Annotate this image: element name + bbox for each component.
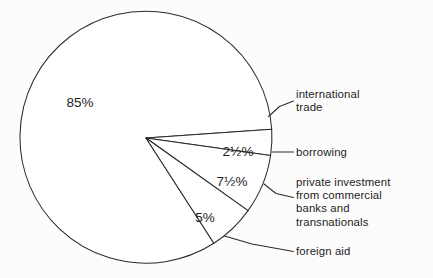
callout-label-borrowing: borrowing bbox=[296, 146, 347, 159]
pie-chart: 85% 2½% 7½% 5% international trade borro… bbox=[0, 0, 433, 278]
callout-label-international-trade: international trade bbox=[296, 88, 360, 114]
slice-percent-international-trade: 85% bbox=[66, 95, 93, 110]
callout-label-private-investment: private investment from commercial banks… bbox=[296, 176, 390, 229]
leader-line-private-investment bbox=[264, 184, 294, 198]
leader-line-foreign-aid bbox=[225, 236, 294, 252]
pie-chart-canvas: 85% 2½% 7½% 5% bbox=[0, 0, 433, 278]
slice-percent-foreign-aid: 5% bbox=[195, 210, 215, 225]
slice-percent-borrowing: 2½% bbox=[223, 144, 254, 159]
leader-line-international-trade bbox=[269, 101, 294, 117]
slice-percent-private-investment: 7½% bbox=[217, 174, 248, 189]
callout-label-foreign-aid: foreign aid bbox=[296, 245, 350, 258]
